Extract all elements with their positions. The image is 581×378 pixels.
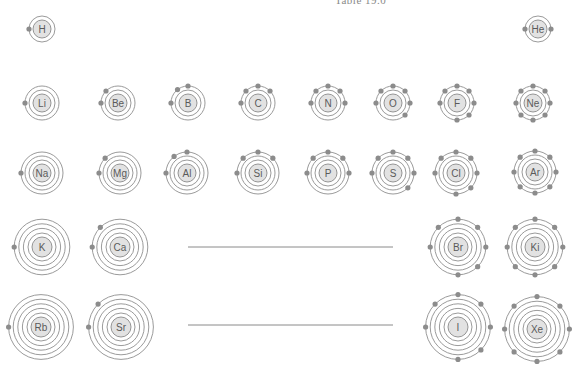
valence-electron bbox=[552, 225, 557, 230]
valence-electron bbox=[552, 264, 557, 269]
valence-electron bbox=[340, 156, 345, 161]
valence-electron bbox=[532, 148, 537, 153]
atom-cl: Cl bbox=[432, 149, 479, 196]
valence-electron bbox=[518, 112, 523, 117]
valence-electron bbox=[98, 225, 103, 230]
element-symbol: He bbox=[532, 24, 545, 35]
valence-electron bbox=[402, 112, 407, 117]
element-symbol: Li bbox=[38, 98, 46, 109]
atom-be: Be bbox=[98, 86, 135, 120]
valence-electron bbox=[234, 170, 239, 175]
element-symbol: Al bbox=[183, 168, 192, 179]
valence-electron bbox=[423, 324, 428, 329]
valence-electron bbox=[346, 170, 351, 175]
element-symbol: P bbox=[325, 168, 332, 179]
valence-electron bbox=[542, 88, 547, 93]
valence-electron bbox=[455, 217, 460, 222]
valence-electron bbox=[530, 117, 535, 122]
valence-electron bbox=[455, 292, 460, 297]
valence-electron bbox=[163, 170, 168, 175]
atom-xe: Xe bbox=[502, 294, 572, 364]
valence-electron bbox=[478, 301, 483, 306]
valence-electron bbox=[557, 303, 562, 308]
valence-electron bbox=[432, 301, 437, 306]
valence-electron bbox=[405, 185, 410, 190]
element-symbol: H bbox=[38, 24, 45, 35]
atom-h: H bbox=[26, 16, 55, 42]
atom-si: Si bbox=[234, 149, 279, 194]
valence-electron bbox=[511, 349, 516, 354]
valence-electron bbox=[18, 170, 23, 175]
transition-metal-gap-lines bbox=[188, 247, 393, 325]
valence-electron bbox=[534, 359, 539, 364]
electron-shell-diagram: HHeLiBeBCNOFNeNaMgAlSiPSClArKCaBrKiRbSrI… bbox=[0, 0, 581, 378]
valence-electron bbox=[313, 88, 318, 93]
valence-electron bbox=[530, 83, 535, 88]
valence-electron bbox=[6, 324, 11, 329]
valence-electron bbox=[402, 88, 407, 93]
element-symbol: O bbox=[389, 98, 397, 109]
valence-electron bbox=[103, 88, 108, 93]
atom-p: P bbox=[304, 149, 351, 194]
valence-electron bbox=[337, 88, 342, 93]
valence-electron bbox=[557, 349, 562, 354]
valence-electron bbox=[437, 100, 442, 105]
valence-electron bbox=[311, 156, 316, 161]
element-symbol: K bbox=[39, 242, 46, 253]
valence-electron bbox=[342, 100, 347, 105]
element-symbol: Ki bbox=[531, 242, 540, 253]
valence-electron bbox=[255, 149, 260, 154]
valence-electron bbox=[475, 225, 480, 230]
valence-electron bbox=[505, 244, 510, 249]
valence-electron bbox=[455, 357, 460, 362]
valence-electron bbox=[553, 169, 558, 174]
valence-electron bbox=[26, 26, 31, 31]
valence-electron bbox=[436, 225, 441, 230]
valence-electron bbox=[475, 264, 480, 269]
valence-electron bbox=[390, 83, 395, 88]
valence-electron bbox=[453, 149, 458, 154]
valence-electron bbox=[373, 100, 378, 105]
valence-electron bbox=[518, 88, 523, 93]
atom-grid: HHeLiBeBCNOFNeNaMgAlSiPSClArKCaBrKiRbSrI… bbox=[6, 16, 572, 364]
atom-sr: Sr bbox=[86, 295, 153, 360]
valence-electron bbox=[532, 272, 537, 277]
element-symbol: N bbox=[324, 98, 331, 109]
valence-electron bbox=[471, 100, 476, 105]
valence-electron bbox=[511, 169, 516, 174]
atom-c: C bbox=[238, 83, 275, 120]
valence-electron bbox=[468, 156, 473, 161]
valence-electron bbox=[243, 88, 248, 93]
valence-electron bbox=[442, 88, 447, 93]
element-symbol: S bbox=[390, 168, 397, 179]
atom-ne: Ne bbox=[513, 83, 552, 122]
valence-electron bbox=[511, 303, 516, 308]
valence-electron bbox=[325, 149, 330, 154]
valence-electron bbox=[12, 244, 17, 249]
valence-electron bbox=[96, 170, 101, 175]
valence-electron bbox=[325, 83, 330, 88]
element-symbol: B bbox=[185, 98, 192, 109]
atom-k: K bbox=[12, 219, 70, 275]
valence-electron bbox=[407, 100, 412, 105]
valence-electron bbox=[547, 155, 552, 160]
valence-electron bbox=[405, 156, 410, 161]
atom-o: O bbox=[373, 83, 412, 120]
element-symbol: Rb bbox=[35, 322, 48, 333]
valence-electron bbox=[466, 112, 471, 117]
valence-electron bbox=[98, 100, 103, 105]
valence-electron bbox=[468, 185, 473, 190]
valence-electron bbox=[548, 26, 553, 31]
valence-electron bbox=[453, 191, 458, 196]
atom-ca: Ca bbox=[90, 219, 148, 275]
atom-ki: Ki bbox=[505, 217, 566, 278]
valence-electron bbox=[411, 170, 416, 175]
valence-electron bbox=[432, 170, 437, 175]
valence-electron bbox=[86, 324, 91, 329]
atom-i: I bbox=[423, 292, 493, 362]
valence-electron bbox=[532, 217, 537, 222]
element-symbol: Be bbox=[112, 98, 125, 109]
valence-electron bbox=[522, 26, 527, 31]
valence-electron bbox=[488, 324, 493, 329]
element-symbol: Xe bbox=[531, 324, 544, 335]
